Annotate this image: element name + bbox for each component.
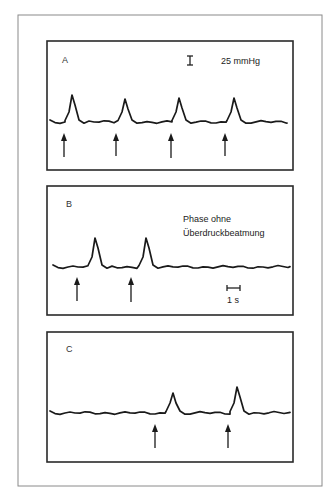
panel-b-letter: B <box>66 199 72 209</box>
panel-c-letter: C <box>66 344 73 354</box>
panel-c: C <box>47 332 293 462</box>
panel-a: A 25 mmHg <box>47 41 293 170</box>
time-scale-label: 1 s <box>227 295 240 305</box>
panel-a-letter: A <box>62 55 68 65</box>
pressure-trace-figure: A 25 mmHg B Phase ohne Überdruckbeatmung… <box>0 0 327 500</box>
panel-b: B Phase ohne Überdruckbeatmung 1 s <box>47 186 293 315</box>
panel-b-frame <box>47 186 293 315</box>
panel-c-frame <box>47 332 293 462</box>
phase-label-line2: Überdruckbeatmung <box>183 228 265 238</box>
pressure-scale-label: 25 mmHg <box>221 56 260 66</box>
phase-label-line1: Phase ohne <box>183 214 231 224</box>
